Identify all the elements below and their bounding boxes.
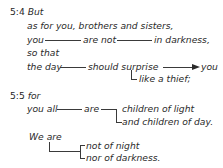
subject-the-day: the day	[27, 61, 62, 72]
connector-line	[57, 109, 82, 110]
conjunction-but: But	[28, 6, 44, 17]
subject-you-all: you all	[27, 103, 58, 114]
connector-line	[131, 79, 137, 80]
connector-line	[60, 67, 86, 68]
complement-in-darkness: in darkness,	[154, 34, 210, 45]
verse-number: 5:5	[10, 90, 25, 101]
verb-are: are	[84, 103, 99, 114]
connector-line	[101, 109, 116, 110]
complement-children-of-light: children of light	[122, 103, 194, 114]
connector-line	[49, 142, 50, 151]
connector-line	[80, 145, 81, 158]
subject-you: you	[27, 34, 44, 45]
phrase-as-for-you: as for you, brothers and sisters,	[27, 20, 173, 31]
complement-not-of-night: not of night	[86, 140, 139, 151]
connector-line	[80, 158, 85, 159]
connector-line	[116, 109, 117, 122]
verse-ref-5-4: 5:4 But	[10, 6, 43, 17]
conjunction-so-that: so that	[27, 47, 59, 58]
connector-line	[45, 40, 81, 41]
object-you: you	[201, 61, 218, 72]
verb-should-surprise: should surprise	[88, 61, 158, 72]
verse-number: 5:4	[10, 6, 25, 17]
conjunction-for: for	[28, 90, 41, 101]
modifier-like-a-thief: like a thief;	[139, 73, 191, 84]
complement-nor-of-darkness: nor of darkness.	[86, 152, 160, 163]
verse-ref-5-5: 5:5 for	[10, 90, 40, 101]
arrow-right-icon	[192, 64, 200, 70]
complement-children-of-day: and children of day.	[122, 116, 213, 127]
subject-we-are: We are	[29, 131, 62, 142]
connector-line	[163, 67, 193, 68]
verb-are-not: are not	[83, 34, 116, 45]
connector-line	[49, 151, 81, 152]
connector-line	[117, 40, 152, 41]
